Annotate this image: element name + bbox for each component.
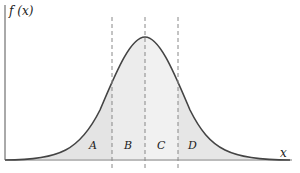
region-label-b: B bbox=[123, 139, 132, 152]
x-axis-label: x bbox=[280, 146, 287, 160]
region-label-d: D bbox=[187, 139, 197, 152]
region-label-c: C bbox=[157, 139, 166, 152]
region-label-a: A bbox=[88, 139, 97, 152]
area-under-curve bbox=[0, 0, 300, 173]
normal-distribution-diagram: f (x) x A B C D bbox=[0, 0, 300, 173]
y-axis-label: f (x) bbox=[8, 4, 34, 18]
